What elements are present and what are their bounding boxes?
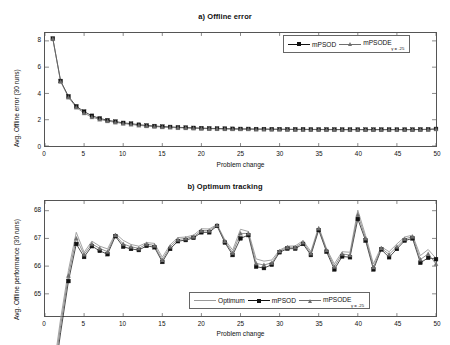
x-tick-label: 40	[348, 150, 368, 157]
x-tick-label: 35	[309, 320, 329, 327]
x-tick-label: 10	[113, 320, 133, 327]
chart-a-x-axis-label: Problem change	[44, 161, 437, 168]
figure-root: a) Offline error Avg. Offline error (30 …	[0, 0, 450, 345]
y-tick-label: 8	[19, 36, 41, 43]
chart-b-legend: OptimummPSODmPSODEγ = .25	[189, 292, 370, 309]
legend-swatch-triangle-icon	[299, 297, 321, 304]
legend-swatch-square-icon	[248, 297, 270, 304]
x-tick-label: 15	[152, 150, 172, 157]
x-tick-label: 0	[34, 320, 54, 327]
legend-label: mPSOD	[312, 41, 336, 48]
chart-b-x-axis-label: Problem change	[44, 330, 437, 337]
y-tick-label: 0	[19, 143, 41, 150]
y-tick-label: 65	[19, 290, 41, 297]
x-tick-label: 20	[191, 150, 211, 157]
legend-label: Optimum	[218, 297, 245, 304]
panel-offline-error: a) Offline error Avg. Offline error (30 …	[0, 0, 450, 175]
legend-item-mpsod: mPSOD	[288, 41, 336, 48]
legend-item-mpsode: mPSODEγ = .25	[299, 296, 365, 305]
y-tick-label: 68	[19, 206, 41, 213]
x-tick-label: 0	[34, 150, 54, 157]
chart-b-title: b) Optimum tracking	[0, 182, 450, 191]
x-tick-label: 30	[270, 150, 290, 157]
legend-label-subscript: γ = .25	[351, 303, 364, 308]
x-tick-label: 10	[113, 150, 133, 157]
y-tick-label: 2	[19, 116, 41, 123]
x-tick-label: 25	[231, 150, 251, 157]
x-tick-label: 5	[73, 320, 93, 327]
legend-label: mPSODEγ = .25	[323, 296, 365, 305]
x-tick-label: 25	[231, 320, 251, 327]
chart-a-legend: mPSODmPSODEγ = .25	[283, 35, 410, 53]
x-tick-label: 15	[152, 320, 172, 327]
x-tick-label: 50	[427, 150, 447, 157]
x-tick-label: 45	[388, 150, 408, 157]
legend-swatch-triangle-icon	[339, 41, 361, 48]
legend-item-mpsode: mPSODEγ = .25	[339, 39, 405, 48]
chart-a-title: a) Offline error	[0, 12, 450, 21]
chart-a-y-axis-label: Avg. Offline error (30 runs)	[13, 69, 20, 147]
y-tick-label: 4	[19, 90, 41, 97]
x-tick-label: 35	[309, 150, 329, 157]
legend-swatch-square-icon	[288, 41, 310, 48]
legend-item-optimum: Optimum	[194, 297, 245, 304]
legend-item-mpsod: mPSOD	[248, 297, 296, 304]
x-tick-label: 30	[270, 320, 290, 327]
y-tick-label: 6	[19, 63, 41, 70]
legend-swatch-none-icon	[194, 297, 216, 304]
y-tick-label: 66	[19, 262, 41, 269]
y-tick-label: 67	[19, 234, 41, 241]
x-tick-label: 40	[348, 320, 368, 327]
x-tick-label: 5	[73, 150, 93, 157]
x-tick-label: 20	[191, 320, 211, 327]
legend-label: mPSOD	[272, 297, 296, 304]
legend-label-subscript: γ = .25	[391, 46, 404, 51]
legend-label: mPSODEγ = .25	[363, 39, 405, 48]
x-tick-label: 50	[427, 320, 447, 327]
x-tick-label: 45	[388, 320, 408, 327]
panel-optimum-tracking: b) Optimum tracking Avg. Offline perform…	[0, 172, 450, 345]
